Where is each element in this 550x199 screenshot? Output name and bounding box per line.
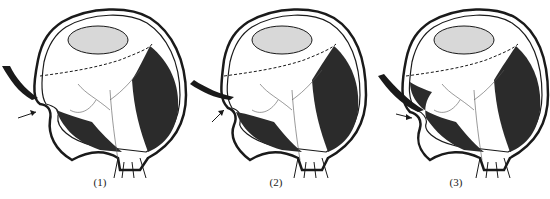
eye-diagram-1 xyxy=(0,0,190,199)
panel-label-3: (3) xyxy=(436,176,476,188)
eye-diagram-3 xyxy=(370,0,550,199)
panel-label-1: (1) xyxy=(80,176,120,188)
panel-1: (1) xyxy=(0,0,190,199)
panel-2: (2) xyxy=(190,0,370,199)
panel-label-2: (2) xyxy=(256,176,296,188)
eye-diagram-2 xyxy=(190,0,370,199)
panel-3: (3) xyxy=(370,0,550,199)
